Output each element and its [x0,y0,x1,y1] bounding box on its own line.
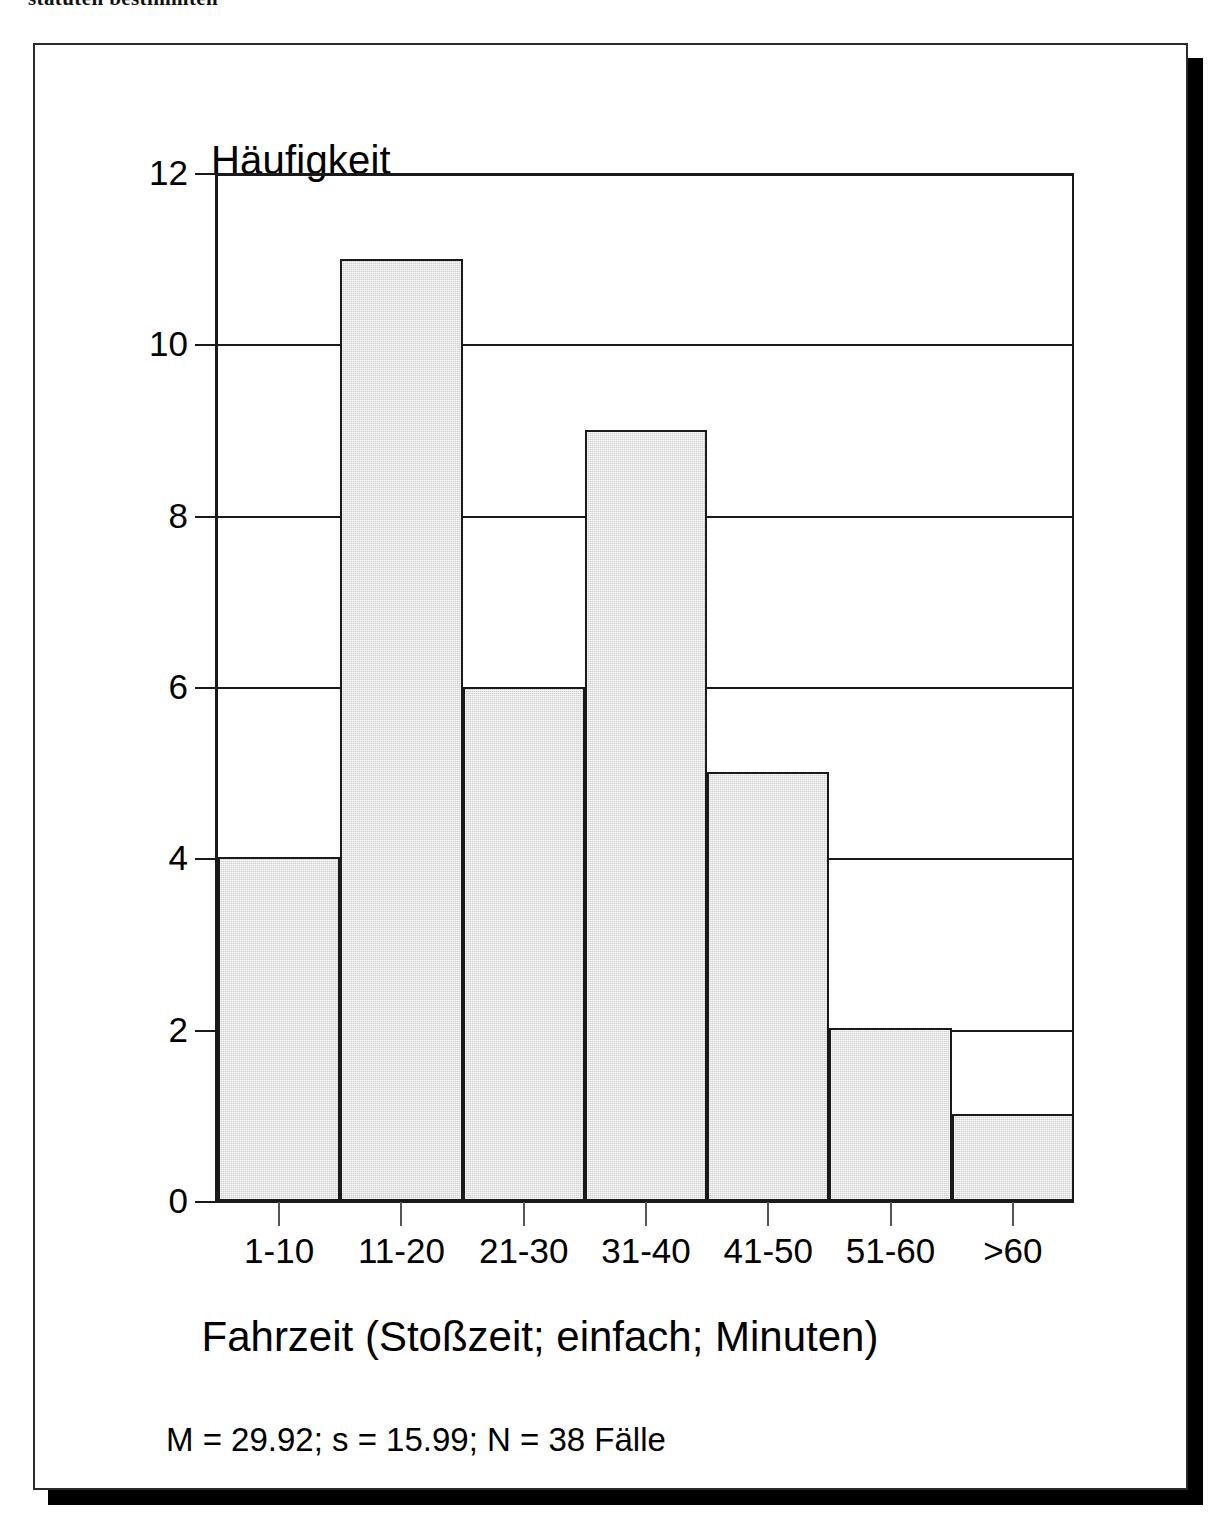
y-tick-mark [195,1201,215,1203]
x-tick-cell [585,1202,707,1228]
x-tick-label-11-20: 11-20 [340,1231,462,1271]
page-top-partial-text: statuten bestimmten [28,0,218,8]
x-tick-mark [767,1202,769,1226]
x-tick-cell [340,1202,462,1228]
x-tick-mark [523,1202,525,1226]
bar-31-40[interactable] [585,430,707,1199]
bar-cell [585,174,707,1199]
x-tick-label-41-50: 41-50 [707,1231,829,1271]
x-tick-mark [400,1202,402,1226]
y-tick-label: 10 [149,324,188,364]
plot-area: 024681012 [215,174,1074,1202]
y-tick-mark [195,173,215,175]
y-tick-label: 2 [169,1010,188,1050]
bar-21-30[interactable] [463,687,585,1200]
bar-cell [218,174,340,1199]
bar-cell [829,174,951,1199]
x-tick-cell [952,1202,1074,1228]
x-tick-label-31-40: 31-40 [585,1231,707,1271]
y-tick-mark [195,687,215,689]
x-tick-label-1-10: 1-10 [218,1231,340,1271]
x-tick-mark [278,1202,280,1226]
bar->60[interactable] [952,1114,1074,1199]
bar-51-60[interactable] [829,1028,951,1199]
bar-cell [952,174,1074,1199]
x-tick-mark [1012,1202,1014,1226]
x-tick-mark [890,1202,892,1226]
bar-cell [707,174,829,1199]
y-tick-label: 4 [169,838,188,878]
x-tick-cell [218,1202,340,1228]
x-tick-label-51-60: 51-60 [829,1231,951,1271]
y-tick-label: 12 [149,153,188,193]
bar-11-20[interactable] [340,259,462,1199]
x-tick-mark [645,1202,647,1226]
bar-1-10[interactable] [218,857,340,1199]
y-tick-label: 0 [169,1181,188,1221]
y-tick-mark [195,344,215,346]
y-tick-label: 8 [169,496,188,536]
x-axis-tick-marks [218,1202,1074,1228]
x-tick-label-21-30: 21-30 [463,1231,585,1271]
stats-caption: M = 29.92; s = 15.99; N = 38 Fälle [166,1421,666,1459]
bar-cell [340,174,462,1199]
y-tick-mark [195,1030,215,1032]
figure-frame: Häufigkeit 024681012 1-1011-2021-3031-40… [33,43,1188,1490]
y-tick-mark [195,516,215,518]
histogram-chart: Häufigkeit 024681012 1-1011-2021-3031-40… [35,45,1186,1488]
x-tick-cell [829,1202,951,1228]
x-tick-cell [463,1202,585,1228]
y-tick-label: 6 [169,667,188,707]
x-axis-title: Fahrzeit (Stoßzeit; einfach; Minuten) [35,1313,1045,1361]
bar-41-50[interactable] [707,772,829,1199]
y-tick-mark [195,858,215,860]
bar-series [218,174,1074,1199]
bar-cell [463,174,585,1199]
x-tick-cell [707,1202,829,1228]
x-tick-label->60: >60 [952,1231,1074,1271]
x-axis-tick-labels: 1-1011-2021-3031-4041-5051-60>60 [218,1231,1074,1271]
